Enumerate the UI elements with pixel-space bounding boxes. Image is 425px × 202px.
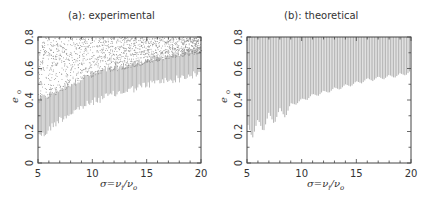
area-plot-theoretical: 510152000.20.40.60.8eo	[209, 0, 421, 202]
svg-text:15: 15	[140, 168, 153, 179]
svg-text:5: 5	[35, 168, 41, 179]
svg-text:5: 5	[244, 168, 250, 179]
svg-text:0: 0	[233, 160, 244, 166]
svg-text:o: o	[224, 90, 232, 94]
svg-text:0.4: 0.4	[233, 92, 244, 108]
svg-text:0.8: 0.8	[24, 29, 35, 45]
svg-text:e: e	[218, 97, 229, 103]
x-axis-label: σ=νi/νo	[100, 178, 137, 192]
svg-text:15: 15	[350, 168, 363, 179]
svg-text:0.4: 0.4	[24, 92, 35, 108]
svg-text:0.2: 0.2	[24, 124, 35, 140]
svg-text:0: 0	[24, 160, 35, 166]
panel-theoretical: (b): theoretical 510152000.20.40.60.8eo …	[209, 0, 421, 202]
x-axis-label: σ=νi/νo	[307, 178, 344, 192]
svg-text:0.8: 0.8	[233, 29, 244, 45]
scatter-plot-experimental: 510152000.20.40.60.8eo	[0, 0, 212, 202]
panel-experimental: (a): experimental 510152000.20.40.60.8eo…	[0, 0, 212, 202]
svg-text:0.6: 0.6	[233, 61, 244, 77]
svg-text:20: 20	[195, 168, 208, 179]
svg-text:10: 10	[86, 168, 99, 179]
svg-text:e: e	[9, 97, 20, 103]
svg-text:0.6: 0.6	[24, 61, 35, 77]
svg-text:0.2: 0.2	[233, 124, 244, 140]
svg-text:20: 20	[405, 168, 418, 179]
svg-text:o: o	[15, 90, 23, 94]
